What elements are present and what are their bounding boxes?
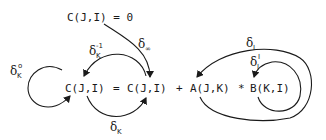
edge-delta-k-0: δ K o xyxy=(10,62,70,107)
term-a: A(J,K) xyxy=(190,82,230,95)
lhs-c: C(J,I) xyxy=(65,82,105,95)
label-sup: o xyxy=(18,62,22,70)
init-statement: C(J,I) = 0 xyxy=(67,11,133,24)
main-statement: C(J,I) = C(J,I) + A(J,K) * B(K,I) xyxy=(65,82,290,95)
label-sub: K xyxy=(96,52,101,60)
times-sign: * xyxy=(238,82,245,95)
label-sub: K xyxy=(17,72,22,80)
label-sub: K xyxy=(117,128,122,136)
label-sub: I xyxy=(253,44,255,52)
plus-sign: + xyxy=(176,82,183,95)
dependence-diagram: C(J,I) = 0 C(J,I) = C(J,I) + A(J,K) * B(… xyxy=(0,0,326,140)
rhs-c: C(J,I) xyxy=(127,82,167,95)
label-sup: I xyxy=(258,53,260,61)
term-b: B(K,I) xyxy=(250,82,290,95)
edge-delta-k: δ K xyxy=(87,96,146,136)
label-sub: I xyxy=(257,63,259,71)
arrow-delta-k-0 xyxy=(28,67,70,107)
edge-delta-i: δ I xyxy=(197,36,311,120)
arrow-delta-k xyxy=(87,96,146,117)
equals-sign: = xyxy=(113,82,120,95)
label-sup: -1 xyxy=(96,42,103,50)
label-sub: ∞ xyxy=(145,45,151,53)
